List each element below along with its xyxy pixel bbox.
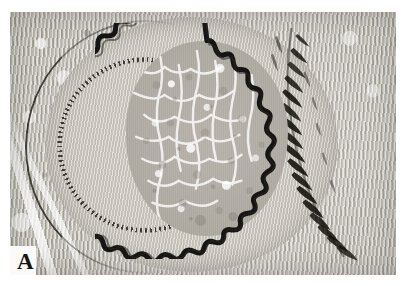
internal-elastic-lamina: [95, 23, 319, 260]
figure-root: A: [0, 0, 406, 286]
crenated-lamina-svg: [95, 23, 319, 260]
micrograph-image: [10, 12, 396, 275]
panel-label: A: [17, 250, 34, 273]
